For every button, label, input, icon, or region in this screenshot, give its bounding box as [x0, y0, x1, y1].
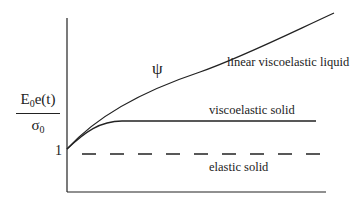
y-axis-label: E0e(t) σ0	[14, 92, 62, 135]
psi-annotation: ψ	[152, 60, 163, 77]
liquid-label: linear viscoelastic liquid	[227, 56, 349, 69]
viscoelastic-solid-curve	[67, 121, 316, 149]
liquid-curve	[67, 13, 334, 149]
viscoelastic-solid-label: viscoelastic solid	[209, 104, 295, 117]
elastic-solid-label: elastic solid	[209, 161, 268, 174]
y-tick-one: 1	[55, 144, 62, 158]
